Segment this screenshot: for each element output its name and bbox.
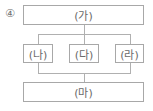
middle-box-center-label: (다) [75,46,94,62]
middle-box-right: (라) [115,44,144,63]
choice-number: ④ [5,7,15,20]
connector-left-down [38,34,39,44]
bottom-box-label: (마) [74,84,93,100]
connector-right-down [130,34,131,44]
connector-right-up [130,63,131,73]
bottom-box: (마) [23,82,144,102]
middle-box-right-label: (라) [120,46,139,62]
connector-center-down [84,34,85,44]
middle-box-center: (다) [69,44,99,63]
middle-box-left: (나) [23,44,53,63]
top-box: (가) [23,5,144,25]
top-box-label: (가) [74,7,93,23]
connector-bottom-vertical [84,73,85,82]
connector-left-up [38,63,39,73]
middle-box-left-label: (나) [29,46,48,62]
connector-top-vertical [84,25,85,34]
